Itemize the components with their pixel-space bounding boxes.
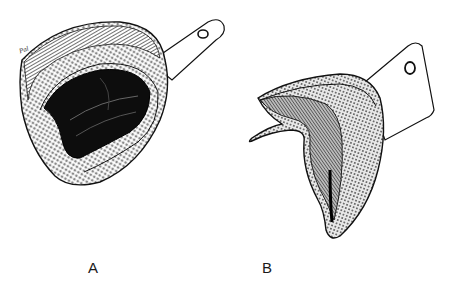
tray-a-illustration: Pal [0,0,230,200]
tray-b-illustration [230,30,452,250]
figure-label-a: A [88,259,98,276]
figure-label-b: B [262,259,272,276]
